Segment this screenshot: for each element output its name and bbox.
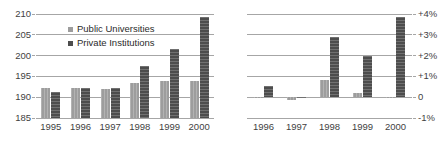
gridline-1 (247, 118, 412, 119)
tick-mark (32, 76, 35, 77)
legend-item-private: Private Institutions (68, 36, 155, 50)
bar-public-1998 (130, 83, 139, 118)
x-axis-label-1998: 1998 (312, 122, 348, 132)
gridline-185 (36, 118, 214, 119)
bar-public-2000 (386, 97, 395, 98)
tick-mark (32, 118, 35, 119)
tick-mark (32, 97, 35, 98)
x-axis-label-2000: 2000 (378, 122, 414, 132)
bar-private-1999 (170, 49, 179, 118)
bar-private-1995 (51, 92, 60, 118)
bar-public-1999 (160, 81, 169, 118)
right-plot-area: -1%0+1%+2%+3%+4% (247, 14, 412, 118)
legend-item-public: Public Universities (68, 22, 155, 36)
legend-label-public: Public Universities (77, 24, 155, 34)
bar-private-2000 (396, 17, 405, 97)
y-axis-label: 0 (418, 92, 423, 102)
legend-swatch-private-icon (68, 41, 73, 46)
gridline-200 (36, 55, 214, 56)
tick-mark (32, 34, 35, 35)
y-axis-label: -1% (418, 113, 435, 123)
gridline-195 (36, 76, 214, 77)
bar-private-1997 (297, 97, 306, 98)
x-axis-label-2000: 2000 (181, 122, 217, 132)
bar-public-1996 (71, 88, 80, 118)
right-chart-panel: -1%0+1%+2%+3%+4% 19961997199819992000 (221, 0, 442, 146)
y-axis-label: 190 (15, 92, 31, 102)
chart-legend: Public Universities Private Institutions (68, 22, 155, 50)
tick-mark (413, 76, 416, 77)
tick-mark (413, 97, 416, 98)
bar-private-1998 (140, 66, 149, 118)
y-axis-label: 195 (15, 71, 31, 81)
tick-mark (32, 14, 35, 15)
legend-swatch-public-icon (68, 27, 73, 32)
gridline-4 (247, 14, 412, 15)
y-axis-label: +3% (418, 30, 437, 40)
bar-private-1997 (111, 88, 120, 118)
y-axis-label: 205 (15, 30, 31, 40)
y-axis-label: 210 (15, 9, 31, 19)
bar-public-1995 (41, 88, 50, 118)
x-axis-label-1997: 1997 (279, 122, 315, 132)
y-axis-label: +1% (418, 71, 437, 81)
tick-mark (413, 118, 416, 119)
y-axis-label: 185 (15, 113, 31, 123)
bar-public-1999 (353, 93, 362, 97)
dual-bar-chart-figure: 185190195200205210 Public Universities P… (0, 0, 442, 146)
x-axis-label-1996: 1996 (246, 122, 282, 132)
legend-label-private: Private Institutions (77, 38, 155, 48)
bar-public-2000 (190, 81, 199, 118)
tick-mark (32, 55, 35, 56)
tick-mark (413, 55, 416, 56)
bar-public-1998 (320, 80, 329, 98)
bar-public-1997 (287, 97, 296, 100)
bar-private-1996 (81, 88, 90, 118)
left-chart-panel: 185190195200205210 Public Universities P… (0, 0, 221, 146)
bar-private-1998 (330, 37, 339, 97)
bar-private-1999 (363, 56, 372, 98)
gridline-210 (36, 14, 214, 15)
x-axis-label-1999: 1999 (345, 122, 381, 132)
y-axis-label: +4% (418, 9, 437, 19)
tick-mark (413, 14, 416, 15)
gridline-190 (36, 97, 214, 98)
gridline-3 (247, 34, 412, 35)
y-axis-label: +2% (418, 51, 437, 61)
bar-public-1996 (254, 97, 263, 98)
y-axis-label: 200 (15, 51, 31, 61)
tick-mark (413, 34, 416, 35)
bar-private-2000 (200, 17, 209, 118)
bar-private-1996 (264, 86, 273, 97)
bar-public-1997 (101, 89, 110, 118)
